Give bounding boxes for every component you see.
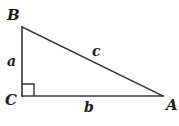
side-label-a: a (7, 54, 16, 68)
side-c-hypotenuse (22, 27, 163, 96)
side-label-c: c (92, 44, 101, 58)
side-label-b: b (84, 100, 94, 114)
vertex-label-b: B (7, 8, 20, 23)
right-triangle-figure: B C A a b c (0, 0, 179, 126)
vertex-label-a: A (166, 98, 178, 113)
right-angle-marker-icon (22, 84, 34, 96)
vertex-label-c: C (5, 93, 17, 108)
